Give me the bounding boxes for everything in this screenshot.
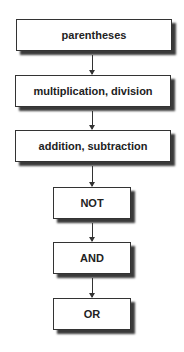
step-label: parentheses	[62, 29, 127, 41]
step-label: OR	[84, 308, 101, 320]
step-label: AND	[80, 252, 104, 264]
step-not: NOT	[53, 187, 131, 219]
step-label: multiplication, division	[33, 85, 152, 97]
step-and: AND	[53, 242, 131, 274]
arrow-1	[92, 55, 93, 74]
step-parentheses: parentheses	[16, 19, 172, 51]
arrow-3	[92, 166, 93, 186]
step-or: OR	[53, 298, 131, 330]
step-label: NOT	[80, 197, 103, 209]
step-multiplication-division: multiplication, division	[15, 75, 171, 107]
step-addition-subtraction: addition, subtraction	[15, 130, 171, 162]
step-label: addition, subtraction	[39, 140, 148, 152]
arrow-2	[92, 111, 93, 129]
arrow-4	[92, 223, 93, 241]
arrow-5	[92, 278, 93, 297]
